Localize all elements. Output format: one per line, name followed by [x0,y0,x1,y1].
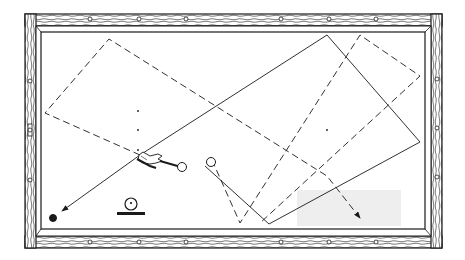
rail-right [431,14,442,248]
aim-dot [137,110,139,112]
rail-diamond [28,128,32,132]
cue-ball-start [178,163,187,172]
rail-diamond [88,240,92,244]
rail-top [25,14,442,26]
aim-dot [137,149,139,151]
spin-base [117,212,145,215]
shaded-region [297,190,401,226]
rail-diamond [435,77,439,81]
rail-diamond [88,17,92,21]
billiards-diagram [0,0,465,260]
rail-diamond [327,240,331,244]
rail-diamond [137,240,141,244]
rail-diamond [327,17,331,21]
rail-diamond [28,79,32,83]
rail-diamond [137,17,141,21]
object-ball [50,215,57,222]
rail-diamond [279,240,283,244]
rail-diamond [435,175,439,179]
rail-diamond [28,178,32,182]
rail-diamond [184,17,188,21]
rail-diamond [435,126,439,130]
rail-diamond [374,240,378,244]
spin-contact-dot [130,202,132,204]
rail-diamond [279,17,283,21]
rail-diamond [374,17,378,21]
aim-dot [326,129,328,131]
aim-dot [137,129,139,131]
cue-ball-ghost [207,158,216,167]
rail-bottom [25,236,442,248]
rail-diamond [184,240,188,244]
